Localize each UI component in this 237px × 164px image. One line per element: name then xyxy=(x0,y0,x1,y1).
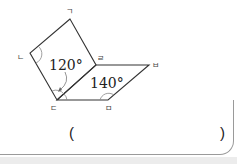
angle-label-140: 140° xyxy=(90,75,124,91)
vertex-label-giyeok: ㄱ xyxy=(66,7,73,16)
vertex-label-bieup: ㅂ xyxy=(152,61,159,70)
answer-open-paren: ( xyxy=(69,125,74,141)
angle-label-120: 120° xyxy=(49,57,83,73)
angle-arc-nieun xyxy=(36,46,42,63)
geometry-figure: ㄱ ㄴ ㄷ ㄹ ㅂ ㅁ 120° 140° xyxy=(0,0,237,164)
vertex-label-nieun: ㄴ xyxy=(17,53,24,62)
answer-close-paren: ) xyxy=(220,125,225,141)
vertex-label-digeut: ㄷ xyxy=(50,104,57,113)
pointer-arrow-120 xyxy=(60,72,67,90)
vertex-label-mieum: ㅁ xyxy=(105,104,112,113)
vertex-label-rieul: ㄹ xyxy=(97,54,104,63)
angle-arc-digeut-inner xyxy=(64,94,67,100)
